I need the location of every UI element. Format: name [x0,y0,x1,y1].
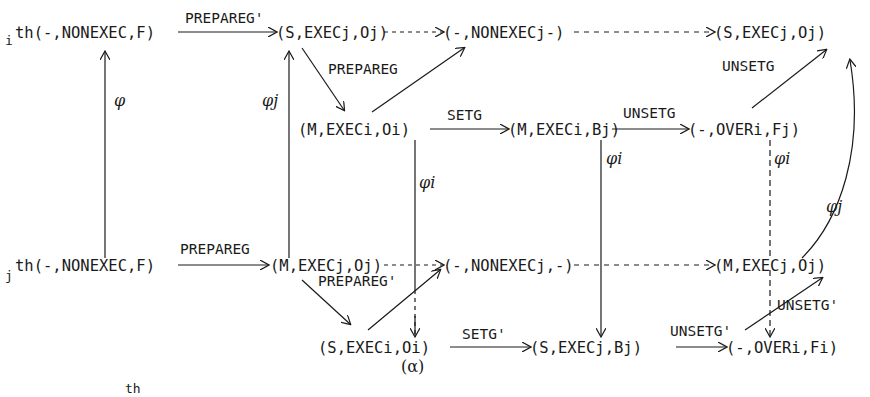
node-mid-m-execi: (M,EXECi,Oi) [298,121,410,139]
map-label-phi-i-mid: φi [419,174,435,192]
node-low-s-execj-bi: (S,EXECj,Bj) [530,339,642,357]
edge-label-setg-prime: SETG' [462,325,506,343]
edge-label-prepareg-prime-top: PREPAREG' [185,9,264,27]
map-label-phi-i-right2: φi [774,150,790,168]
node-bot-right: (M,EXECj,Oj) [714,257,826,275]
edge-label-prepareg-prime-bot: PREPAREG' [318,272,397,290]
node-prefix-i: i [5,32,13,50]
map-label-phi-j-curve: φj [826,198,842,216]
map-label-phi-i-right1: φi [606,150,622,168]
node-low-over: (-,OVERi,Fi) [726,339,838,357]
node-top-nonexecj: (-,NONEXECj-) [443,24,564,42]
node-top-s-execj: (S,EXECj,Oj) [276,24,388,42]
node-mid-m-execi-bj: (M,EXECi,Bj) [508,121,620,139]
node-bot-start: th(-,NONEXEC,F) [15,257,155,275]
edge-label-prepareg-top: PREPAREG [328,60,398,78]
node-top-start: th(-,NONEXEC,F) [15,24,155,42]
node-top-right: (S,EXECj,Oj) [714,24,826,42]
node-mid-over: (-,OVERi,Fj) [688,121,800,139]
edge-label-unsetg-prime-low: UNSETG' [670,322,731,340]
map-label-phi: φ [114,92,125,110]
edge-label-unsetg-prime-right: UNSETG' [777,296,838,314]
edge-label-prepareg-bot: PREPAREG [180,240,250,258]
alpha-label: (α) [401,358,424,376]
edge-label-unsetg-mid: UNSETG [623,104,675,122]
node-prefix-j: j [5,267,13,285]
node-bot-nonexecj: (-,NONEXECj,-) [443,257,574,275]
node-low-s-execi: (S,EXECi,Oi) [318,339,430,357]
map-label-phi-j-left: φj [262,92,278,110]
edge-label-setg: SETG [447,106,482,124]
footer-fragment: th [125,380,141,397]
edge-label-unsetg-top: UNSETG [722,57,774,75]
